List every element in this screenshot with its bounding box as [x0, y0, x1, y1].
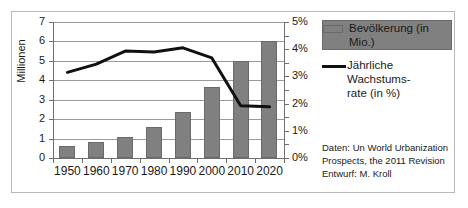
y-axis-left-tick-label: 7 — [19, 16, 45, 27]
source-line-3: Entwurf: M. Kroll — [322, 167, 450, 180]
y-axis-right-minor-tick — [285, 63, 289, 64]
x-axis-tick-mark — [53, 159, 54, 163]
legend-bar-swatch-icon — [323, 25, 343, 33]
x-axis-tick-mark — [111, 159, 112, 163]
y-axis-right-tick-label: 3% — [292, 70, 322, 81]
x-axis-tick-mark — [197, 159, 198, 163]
y-axis-right-minor-tick — [285, 117, 289, 118]
x-axis-tick-mark — [169, 159, 170, 163]
x-axis-tick-mark — [140, 159, 141, 163]
y-axis-right-tick-label: 2% — [292, 98, 322, 109]
legend-item-wachstumsrate: Jährliche Wachstums- rate (in %) — [322, 58, 452, 100]
y-axis-left-tick-label: 6 — [19, 35, 45, 46]
line-series-layer — [53, 22, 285, 159]
y-axis-right-tick-mark — [285, 131, 289, 132]
x-axis-tick-mark — [226, 159, 227, 163]
y-axis-right-tick-label: 1% — [292, 125, 322, 136]
y-axis-left-tick-label: 5 — [19, 55, 45, 66]
y-axis-right-tick-mark — [285, 49, 289, 50]
x-axis-tick-mark — [82, 159, 83, 163]
y-axis-right-tick-mark — [285, 158, 289, 159]
chart-figure: Millionen 01234567 0%1%2%3%4%5% 19501960… — [0, 0, 468, 208]
y-axis-right-minor-tick — [285, 144, 289, 145]
y-axis-right-tick-mark — [285, 22, 289, 23]
source-line-2: Prospects, the 2011 Revision — [322, 154, 450, 167]
y-axis-right-tick-label: 4% — [292, 43, 322, 54]
source-line-1: Daten: Un World Urbanization — [322, 141, 450, 154]
y-axis-left-tick-label: 1 — [19, 133, 45, 144]
y-axis-left-tick-label: 3 — [19, 94, 45, 105]
y-axis-right-tick-label: 5% — [292, 16, 322, 27]
y-axis-right-tick-mark — [285, 104, 289, 105]
x-axis-tick-mark — [255, 159, 256, 163]
y-axis-right-tick-mark — [285, 76, 289, 77]
x-axis-tick-label: 2020 — [253, 165, 287, 178]
legend-line-swatch-icon — [322, 65, 346, 68]
y-axis-right-tick-label: 0% — [292, 152, 322, 163]
y-axis-right-minor-tick — [285, 36, 289, 37]
y-axis-left-tick-label: 4 — [19, 74, 45, 85]
y-axis-left-tick-label: 0 — [19, 152, 45, 163]
growth-rate-line — [67, 48, 269, 107]
y-axis-right-minor-tick — [285, 90, 289, 91]
y-axis-left-tick-label: 2 — [19, 113, 45, 124]
x-axis-tick-mark — [284, 159, 285, 163]
source-note: Daten: Un World Urbanization Prospects, … — [322, 141, 450, 180]
chart-legend: Bevölkerung (in Mio.) Jährliche Wachstum… — [322, 20, 452, 108]
legend-item-bevoelkerung: Bevölkerung (in Mio.) — [322, 20, 452, 50]
